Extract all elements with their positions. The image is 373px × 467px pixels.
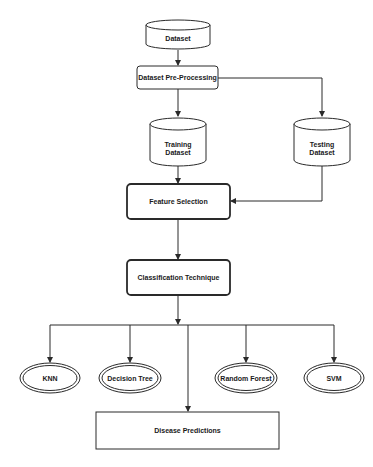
feature-selection-node[interactable]: Feature Selection — [127, 184, 230, 219]
testing-label-line1: Testing — [310, 141, 334, 149]
svm-node[interactable]: SVM — [304, 363, 364, 393]
decision-tree-label: Decision Tree — [107, 375, 153, 382]
svm-label: SVM — [326, 375, 341, 382]
decision-tree-node[interactable]: Decision Tree — [99, 363, 161, 393]
random-forest-node[interactable]: Random Forest — [215, 363, 277, 393]
knn-node[interactable]: KNN — [20, 363, 80, 393]
feature-selection-label: Feature Selection — [149, 198, 207, 205]
disease-predictions-label: Disease Predictions — [154, 427, 221, 434]
knn-label: KNN — [42, 375, 57, 382]
testing-label-line2: Dataset — [309, 149, 335, 156]
flowchart-diagram: Dataset Dataset Pre-Processing Training … — [0, 0, 373, 467]
classification-label: Classification Technique — [138, 274, 220, 282]
testing-dataset-node[interactable]: Testing Dataset — [294, 118, 350, 166]
preprocessing-label: Dataset Pre-Processing — [138, 74, 217, 82]
training-label-line2: Dataset — [165, 149, 191, 156]
cylinder-top — [294, 118, 350, 130]
dataset-label: Dataset — [165, 35, 191, 42]
cylinder-top — [150, 118, 206, 130]
cylinder-top — [146, 20, 210, 30]
edge-testing-to-feature — [231, 166, 322, 201]
classification-node[interactable]: Classification Technique — [127, 260, 230, 295]
preprocessing-node[interactable]: Dataset Pre-Processing — [137, 66, 218, 89]
disease-predictions-node[interactable]: Disease Predictions — [96, 412, 279, 449]
edge-preprocessing-to-testing — [218, 78, 322, 116]
training-dataset-node[interactable]: Training Dataset — [150, 118, 206, 166]
random-forest-label: Random Forest — [220, 375, 272, 382]
edges — [50, 50, 334, 411]
training-label-line1: Training — [164, 141, 191, 149]
dataset-node[interactable]: Dataset — [146, 20, 210, 49]
